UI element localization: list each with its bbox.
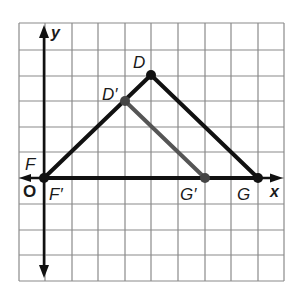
label-d-prime: D′ bbox=[102, 85, 118, 104]
label-g: G bbox=[237, 185, 250, 204]
origin-label: O bbox=[23, 182, 36, 201]
point-g bbox=[253, 173, 263, 183]
y-axis-label: y bbox=[50, 24, 61, 41]
y-axis-up-arrow-icon bbox=[39, 25, 49, 38]
point-f bbox=[39, 173, 49, 183]
label-f-prime: F′ bbox=[49, 185, 63, 204]
point-d bbox=[146, 70, 156, 80]
label-g-prime: G′ bbox=[180, 185, 197, 204]
label-f: F bbox=[25, 155, 37, 174]
coordinate-plane-diagram: y x O D D′ F F′ G′ G bbox=[0, 0, 299, 296]
x-axis-left-arrow-icon bbox=[19, 174, 31, 182]
grid bbox=[19, 23, 284, 281]
x-axis-label: x bbox=[269, 183, 280, 200]
point-g-prime bbox=[200, 173, 210, 183]
triangle-d-prime-f-prime-g-prime bbox=[125, 101, 205, 178]
x-axis-right-arrow-icon bbox=[270, 174, 283, 183]
point-d-prime bbox=[120, 96, 130, 106]
label-d: D bbox=[133, 53, 145, 72]
y-axis-down-arrow-icon bbox=[39, 265, 49, 278]
